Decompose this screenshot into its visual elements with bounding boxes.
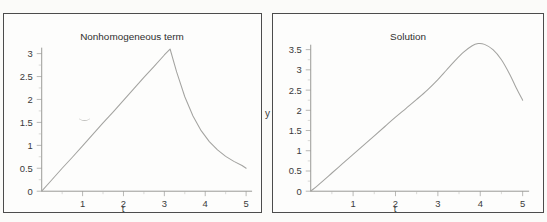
x-axis-label-left: t bbox=[122, 203, 125, 212]
plot-svg-left: Nonhomogeneous term bbox=[4, 14, 261, 212]
y-axis-label-right: y bbox=[265, 108, 270, 119]
chart-panel-nonhomogeneous-term: Nonhomogeneous term bbox=[3, 13, 262, 213]
y-tick-label-right-3: 1.5 bbox=[289, 125, 302, 136]
y-tick-label-left-1: 0.5 bbox=[20, 163, 33, 174]
y-tick-label-left-2: 1 bbox=[28, 140, 33, 151]
y-tick-label-left-5: 2.5 bbox=[20, 71, 33, 82]
x-tick-marks-right bbox=[353, 191, 523, 196]
x-tick-marks-left bbox=[83, 191, 247, 196]
data-curve-nonhomogeneous-term bbox=[42, 49, 246, 191]
x-tick-label-left-3: 4 bbox=[203, 198, 208, 209]
chart-panel-solution: Solution 0 bbox=[272, 13, 544, 213]
scan-artifact-smudge bbox=[79, 115, 90, 121]
x-tick-label-left-2: 3 bbox=[162, 198, 167, 209]
y-tick-label-right-4: 2 bbox=[297, 105, 302, 116]
plot-svg-right: Solution 0 bbox=[273, 14, 543, 212]
x-tick-label-right-3: 4 bbox=[478, 198, 483, 209]
y-tick-label-right-7: 3.5 bbox=[289, 44, 302, 55]
x-tick-label-left-4: 5 bbox=[243, 198, 248, 209]
x-tick-label-right-2: 3 bbox=[435, 198, 440, 209]
y-tick-marks-left bbox=[37, 54, 42, 192]
chart-title-left: Nonhomogeneous term bbox=[80, 31, 184, 42]
data-curve-solution bbox=[311, 43, 523, 191]
chart-title-right: Solution bbox=[390, 31, 426, 42]
y-tick-label-right-6: 3 bbox=[297, 64, 302, 75]
y-tick-label-left-0: 0 bbox=[28, 186, 33, 197]
y-tick-label-left-6: 3 bbox=[28, 48, 33, 59]
y-tick-label-right-5: 2.5 bbox=[289, 85, 302, 96]
y-tick-label-right-2: 1 bbox=[297, 145, 302, 156]
y-tick-label-right-0: 0 bbox=[297, 186, 302, 197]
y-tick-label-left-3: 1.5 bbox=[20, 117, 33, 128]
x-tick-label-right-0: 1 bbox=[350, 198, 355, 209]
x-axis-label-right: t bbox=[394, 203, 397, 212]
x-tick-label-right-4: 5 bbox=[520, 198, 525, 209]
x-tick-label-left-0: 1 bbox=[80, 198, 85, 209]
y-tick-label-left-4: 2 bbox=[28, 94, 33, 105]
y-tick-label-right-1: 0.5 bbox=[289, 165, 302, 176]
figure-canvas: Nonhomogeneous term bbox=[0, 0, 547, 222]
